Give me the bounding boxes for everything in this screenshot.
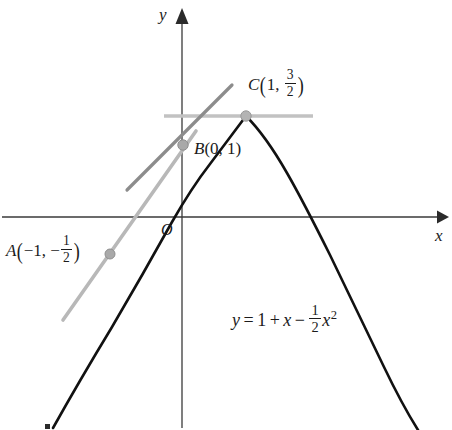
point-A-marker bbox=[105, 249, 115, 259]
point-A-name: A bbox=[6, 241, 16, 260]
point-A-y-numerator: 1 bbox=[61, 234, 72, 250]
equation-constant: 1 bbox=[257, 310, 267, 330]
parabola-figure: y x O C(1, 32) B(0, 1) A(−1, −12) y=1+x−… bbox=[0, 0, 452, 430]
point-A-y-denominator: 2 bbox=[61, 250, 72, 265]
x-axis bbox=[2, 211, 449, 224]
equation-plus: + bbox=[267, 310, 284, 330]
y-axis-label: y bbox=[159, 6, 167, 23]
point-B-close-paren: ) bbox=[236, 139, 242, 158]
point-C-name: C bbox=[248, 75, 259, 94]
point-C-y-fraction: 32 bbox=[285, 68, 296, 98]
equation-coefficient-numerator: 1 bbox=[309, 303, 321, 319]
y-axis-arrowhead bbox=[176, 8, 189, 24]
point-C-x: 1 bbox=[267, 75, 276, 94]
x-axis-arrowhead bbox=[437, 211, 449, 224]
equation-xsquared-exponent: 2 bbox=[331, 308, 338, 322]
equation-minus: − bbox=[292, 310, 309, 330]
point-B-y: 1 bbox=[227, 139, 236, 158]
point-C-close-paren: ) bbox=[297, 75, 303, 97]
x-axis-label: x bbox=[435, 227, 443, 244]
point-A-y-sign: − bbox=[50, 241, 60, 260]
point-C-comma: , bbox=[275, 75, 284, 94]
point-B-x: 0 bbox=[210, 139, 219, 158]
point-A-open-paren: ( bbox=[17, 241, 23, 263]
tangent-line-at-B bbox=[127, 85, 232, 190]
equation-coefficient-denominator: 2 bbox=[309, 319, 321, 334]
point-A-y-fraction: 12 bbox=[61, 234, 72, 264]
chord-line-AC bbox=[63, 131, 196, 320]
point-C-label: C(1, 32) bbox=[248, 68, 304, 98]
equation-equals: = bbox=[241, 310, 258, 330]
parabola-curve bbox=[53, 116, 418, 430]
point-B-comma: , bbox=[219, 139, 228, 158]
point-B-name: B bbox=[194, 139, 204, 158]
point-A-x: −1 bbox=[24, 241, 42, 260]
point-B-marker bbox=[178, 140, 188, 150]
point-C-y-numerator: 3 bbox=[285, 68, 296, 84]
equation-lhs: y bbox=[232, 310, 241, 330]
point-C-marker bbox=[241, 111, 251, 121]
point-C-y-denominator: 2 bbox=[285, 84, 296, 99]
point-A-label: A(−1, −12) bbox=[6, 234, 80, 264]
equation-xsquared-base: x bbox=[322, 310, 331, 330]
curve-equation-label: y=1+x−12x2 bbox=[232, 303, 337, 335]
figure-canvas bbox=[0, 0, 452, 430]
y-axis bbox=[176, 8, 189, 428]
equation-coefficient-fraction: 12 bbox=[309, 303, 321, 335]
equation-x-term: x bbox=[283, 310, 292, 330]
curve-endpoint-artifact bbox=[45, 424, 50, 429]
point-B-label: B(0, 1) bbox=[194, 140, 241, 157]
origin-label: O bbox=[161, 222, 173, 238]
point-C-open-paren: ( bbox=[260, 75, 266, 97]
point-A-close-paren: ) bbox=[73, 241, 79, 263]
